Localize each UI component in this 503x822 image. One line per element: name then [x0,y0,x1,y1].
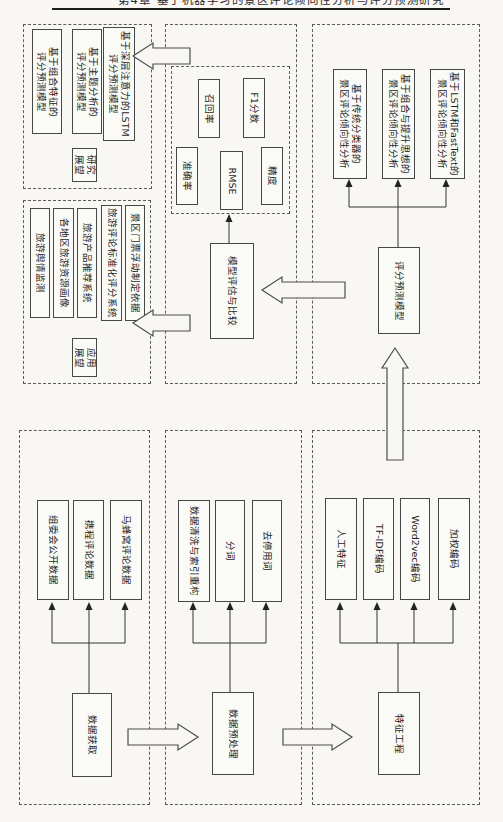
prep-item-segmentation: 分词 [215,500,245,602]
model-evaluation-compare-box: 模型评估与比较 [210,243,254,339]
sentiment-box-traditional-classifier: 基于传统分类器的 景区评论倾向性分析 [333,69,367,179]
data-item-mafengwo-reviews: 马蜂窝评论数据 [110,500,142,600]
prep-item-cleaning-reindex: 数据清洗与索引重构 [178,500,210,602]
app-item-tourism-sentiment-monitor: 旅游舆情监测 [30,208,50,318]
data-acquisition-label-box: 数据获取 [72,693,112,777]
data-item-committee-open-data: 组委会公开数据 [37,500,69,600]
app-item-review-standard-scoring: 旅游评论标准化评分系统 [101,205,122,321]
application-outlook-label-box: 应用 展望 [72,338,97,377]
metric-accuracy-box: 准确率 [176,147,198,205]
feature-engineering-label-box: 特征工程 [378,692,420,775]
sentiment-box-ensemble-boosting: 基于组合与提升思想的 景区评论倾向性分析 [382,69,415,179]
app-item-regional-resource-profile: 各地区旅游资源画像 [53,208,74,318]
research-outlook-label-box: 研究 展望 [72,148,97,182]
prep-item-stopwords: 去停用词 [252,500,282,602]
metric-f1-box: F1分数 [243,78,265,138]
app-item-product-recommendation: 旅游产品推荐系统 [77,208,97,318]
scanned-thesis-page: 第4章 基于机器学习的景区评论倾向性分析与评分预测研究 基于组合特征的 评分预测… [0,0,503,822]
feat-item-word2vec: Word2vec编码 [400,498,430,600]
preprocessing-label-box: 数据预处理 [212,692,254,775]
feat-item-manual: 人工特征 [325,498,357,600]
page-header-text: 第4章 基于机器学习的景区评论倾向性分析与评分预测研究 [118,0,448,7]
metric-recall-box: 召回率 [198,79,220,138]
app-item-ticket-floating-pricing: 景区门票浮动制定依据 [125,205,145,321]
data-item-ctrip-reviews: 携程评论数据 [73,500,104,600]
model-box-deep-attention-lstm: 基于深层注意力的LSTM 评分预测模型 [103,27,135,141]
feat-item-weighted: 加权编码 [438,498,470,600]
header-rule [52,8,450,10]
model-box-topic-analysis: 基于主题分析的 评分预测模型 [72,29,102,134]
page-header-clipped: 第4章 基于机器学习的景区评论倾向性分析与评分预测研究 [118,0,448,7]
feat-item-tfidf: TF-IDF编码 [363,498,394,600]
sentiment-box-lstm-fasttext: 基于LSTM和FastText的 景区评论倾向性分析 [430,69,465,179]
metric-precision-box: 精度 [261,147,283,205]
rating-prediction-model-box: 评分预测模型 [378,247,420,334]
metric-rmse-box: RMSE [220,151,243,210]
model-box-combined-features: 基于组合特征的 评分预测模型 [32,29,62,134]
